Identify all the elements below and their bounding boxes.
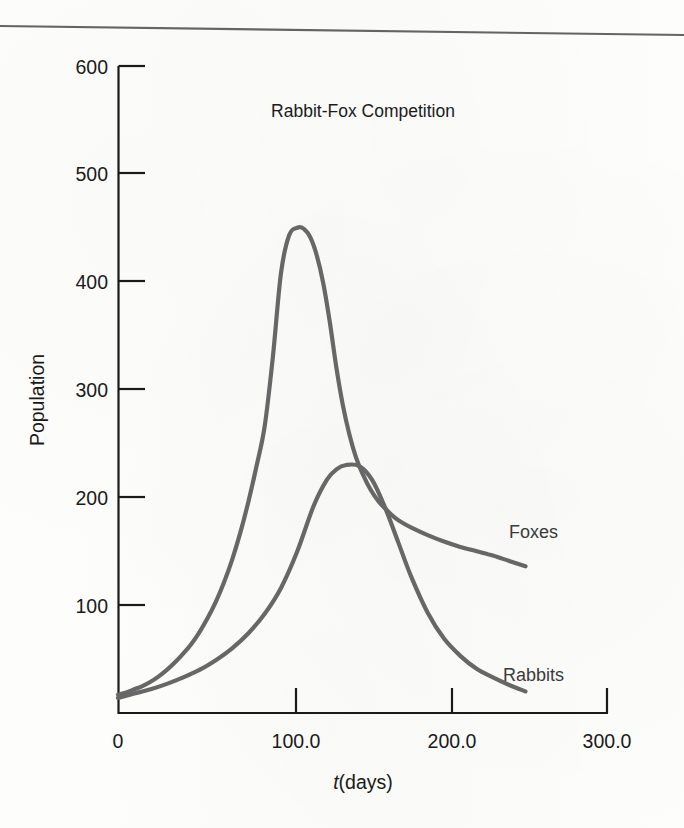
x-axis-title-unit: (days)	[339, 771, 393, 793]
y-tick-label-600: 600	[75, 56, 108, 78]
y-tick-label-200: 200	[75, 487, 108, 509]
y-tick-label-100: 100	[75, 595, 108, 617]
x-tick-label-100: 100.0	[272, 730, 321, 752]
chart-title: Rabbit-Fox Competition	[271, 101, 455, 121]
y-tick-label-400: 400	[75, 271, 108, 293]
series-label-foxes: Foxes	[509, 522, 558, 542]
chart-canvas: 600 500 400 300 200 100 Population 0 100…	[0, 0, 684, 828]
x-axis-title: t(days)	[333, 771, 393, 793]
x-tick-label-300: 300.0	[583, 730, 632, 752]
x-axis-ticks	[296, 688, 607, 713]
page-edge-rule	[0, 26, 684, 35]
y-tick-label-500: 500	[75, 163, 108, 185]
series-line-rabbits	[118, 464, 526, 698]
y-tick-label-300: 300	[75, 379, 108, 401]
y-axis-title: Population	[26, 354, 48, 446]
x-tick-label-0: 0	[113, 730, 124, 752]
y-axis-ticks	[119, 66, 146, 605]
series-line-foxes	[118, 227, 526, 694]
x-tick-label-200: 200.0	[428, 730, 477, 752]
series-label-rabbits: Rabbits	[503, 665, 564, 685]
scanned-page: 600 500 400 300 200 100 Population 0 100…	[0, 0, 684, 828]
